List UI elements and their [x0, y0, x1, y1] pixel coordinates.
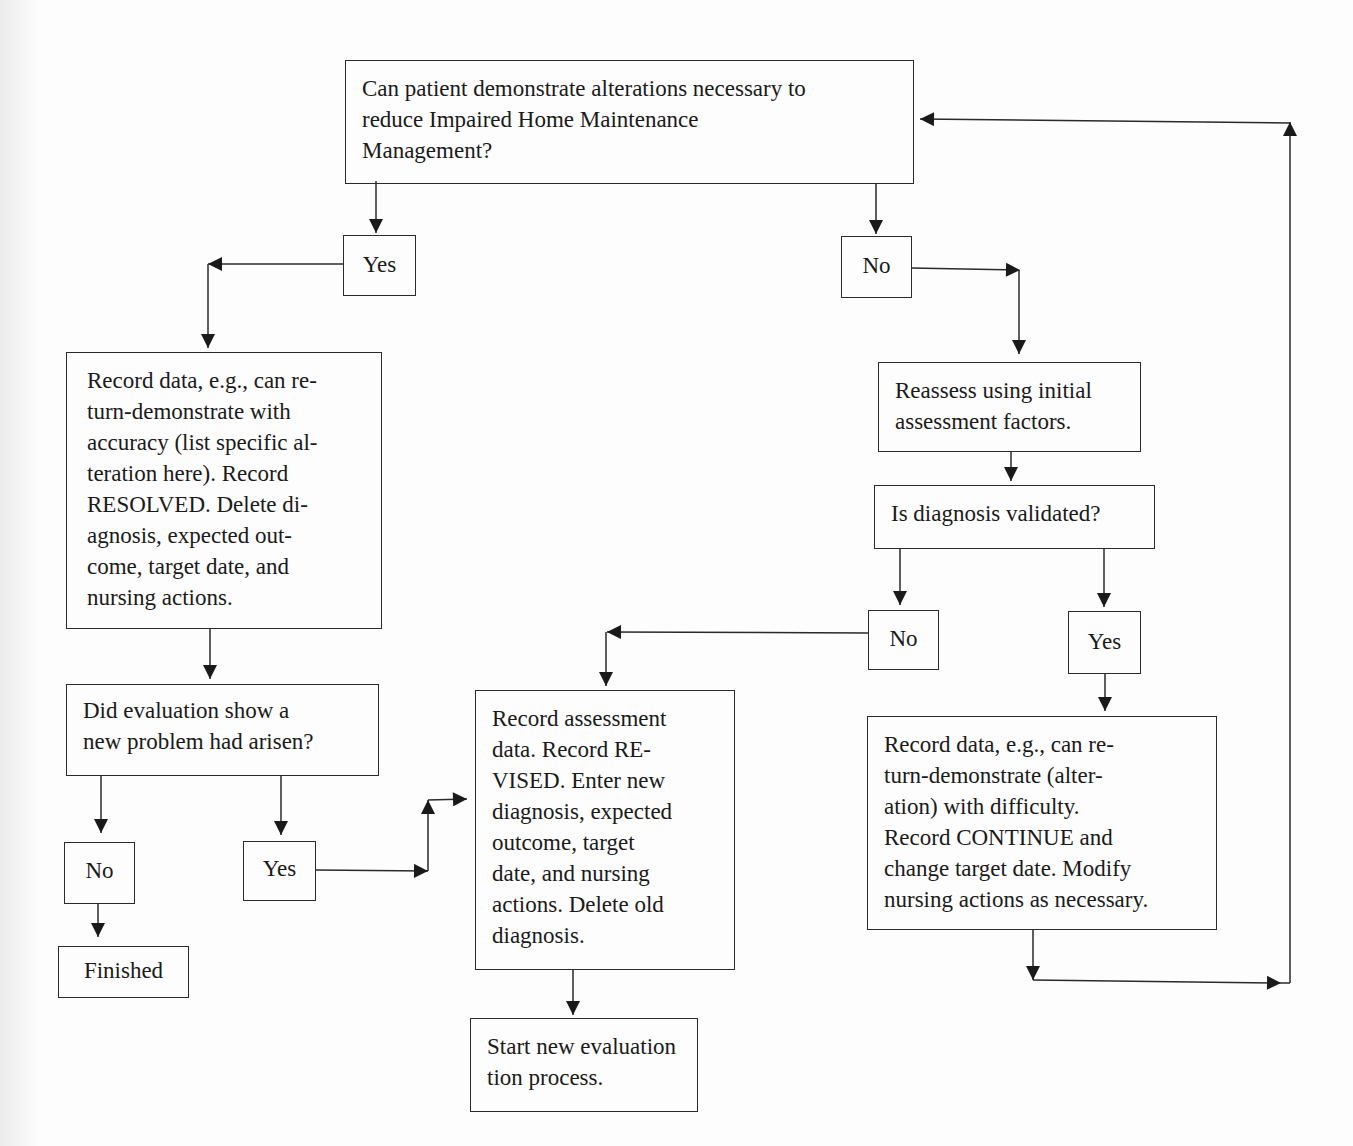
yes-label-3: Yes — [243, 841, 316, 901]
continue-line-3: ation) with difficulty. — [884, 791, 1200, 822]
start-question-line-3: Management? — [362, 135, 897, 166]
revised-line-8: diagnosis. — [492, 920, 718, 951]
start-question-line-2: reduce Impaired Home Maintenance — [362, 104, 897, 135]
start-new-evaluation-node: Start new evaluation tion process. — [470, 1018, 698, 1112]
revised-action-node: Record assessment data. Record RE- VISED… — [475, 690, 735, 970]
resolved-line-7: come, target date, and — [87, 551, 361, 582]
continue-line-4: Record CONTINUE and — [884, 822, 1200, 853]
revised-line-3: VISED. Enter new — [492, 765, 718, 796]
revised-line-2: data. Record RE- — [492, 734, 718, 765]
start-question-line-1: Can patient demonstrate alterations nece… — [362, 73, 897, 104]
reassess-line-1: Reassess using initial — [895, 375, 1124, 406]
reassess-line-2: assessment factors. — [895, 406, 1124, 437]
new-problem-question-node: Did evaluation show a new problem had ar… — [66, 684, 379, 776]
resolved-line-1: Record data, e.g., can re- — [87, 365, 361, 396]
new-problem-line-2: new problem had arisen? — [83, 726, 362, 757]
revised-line-4: diagnosis, expected — [492, 796, 718, 827]
revised-line-7: actions. Delete old — [492, 889, 718, 920]
continue-line-2: turn-demonstrate (alter- — [884, 760, 1200, 791]
continue-line-5: change target date. Modify — [884, 853, 1200, 884]
validated-question-node: Is diagnosis validated? — [874, 485, 1155, 549]
continue-line-6: nursing actions as necessary. — [884, 884, 1200, 915]
continue-action-node: Record data, e.g., can re- turn-demonstr… — [867, 716, 1217, 930]
resolved-action-node: Record data, e.g., can re- turn-demonstr… — [66, 352, 382, 629]
finished-node: Finished — [58, 946, 189, 998]
revised-line-6: date, and nursing — [492, 858, 718, 889]
no-label-2: No — [868, 610, 939, 670]
resolved-line-4: teration here). Record — [87, 458, 361, 489]
start-new-line-1: Start new evaluation — [487, 1031, 681, 1062]
no-label-1: No — [841, 236, 912, 298]
resolved-line-8: nursing actions. — [87, 582, 361, 613]
no-label-3: No — [64, 842, 135, 904]
start-new-line-2: tion process. — [487, 1062, 681, 1093]
resolved-line-6: agnosis, expected out- — [87, 520, 361, 551]
resolved-line-3: accuracy (list specific al- — [87, 427, 361, 458]
resolved-line-5: RESOLVED. Delete di- — [87, 489, 361, 520]
resolved-line-2: turn-demonstrate with — [87, 396, 361, 427]
continue-line-1: Record data, e.g., can re- — [884, 729, 1200, 760]
new-problem-line-1: Did evaluation show a — [83, 695, 362, 726]
yes-label-1: Yes — [343, 235, 416, 296]
start-question-node: Can patient demonstrate alterations nece… — [345, 60, 914, 184]
yes-label-2: Yes — [1068, 611, 1141, 674]
revised-line-5: outcome, target — [492, 827, 718, 858]
reassess-node: Reassess using initial assessment factor… — [878, 362, 1141, 452]
revised-line-1: Record assessment — [492, 703, 718, 734]
